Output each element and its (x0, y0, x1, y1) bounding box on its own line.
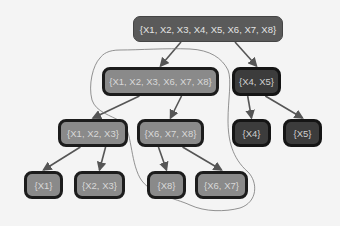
node-label: {X5} (294, 128, 312, 139)
node-label: {X1, X2, X3, X6, X7, X8} (109, 76, 211, 87)
edge-arrow (161, 42, 182, 66)
node-label: {X8} (158, 180, 176, 191)
node-label: {X1} (35, 180, 53, 191)
edge-arrow (171, 96, 182, 118)
edge-arrow (100, 147, 106, 170)
cluster-tree-diagram: {X1, X2, X3, X4, X5, X6, X7, X8}{X1, X2,… (0, 0, 340, 226)
edge-arrow (183, 147, 222, 170)
tree-node-n6[interactable]: {X5} (283, 119, 322, 147)
node-label: {X6, X7, X8} (145, 128, 197, 139)
node-label: {X6, X7} (204, 180, 239, 191)
node-label: {X1, X2, X3, X4, X5, X6, X7, X8} (140, 24, 276, 35)
tree-node-n9[interactable]: {X8} (147, 171, 186, 199)
edge-arrow (93, 96, 139, 118)
tree-node-n3[interactable]: {X1, X2, X3} (58, 119, 128, 147)
tree-node-n10[interactable]: {X6, X7} (195, 171, 248, 199)
edge-arrow (44, 147, 81, 170)
tree-node-n1[interactable]: {X1, X2, X3, X6, X7, X8} (102, 67, 219, 96)
node-label: {X2, X3} (82, 180, 117, 191)
tree-node-n2[interactable]: {X4, X5} (232, 67, 281, 96)
tree-node-n8[interactable]: {X2, X3} (74, 171, 125, 199)
tree-node-n7[interactable]: {X1} (24, 171, 63, 199)
edge-arrow (235, 42, 257, 66)
tree-node-n4[interactable]: {X6, X7, X8} (137, 119, 204, 147)
tree-node-n5[interactable]: {X4} (232, 119, 271, 147)
node-label: {X4, X5} (239, 76, 274, 87)
edge-arrow (158, 147, 166, 170)
node-label: {X4} (243, 128, 261, 139)
edge-arrow (248, 96, 252, 118)
tree-node-n0[interactable]: {X1, X2, X3, X4, X5, X6, X7, X8} (133, 16, 283, 42)
node-label: {X1, X2, X3} (67, 128, 119, 139)
edge-arrow (265, 96, 302, 118)
